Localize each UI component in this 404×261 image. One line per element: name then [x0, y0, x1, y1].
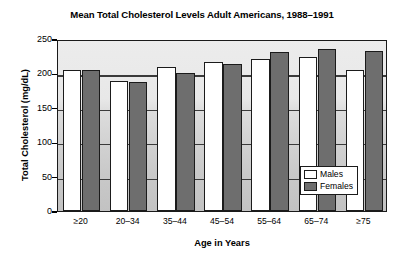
bar-males-45–54	[204, 62, 223, 211]
legend-swatch-females-icon	[304, 182, 317, 191]
legend-label-females: Females	[320, 182, 353, 191]
bar-females-45–54	[223, 64, 242, 211]
bar-females-≥20	[82, 70, 101, 211]
x-axis-title: Age in Years	[57, 238, 387, 248]
chart-title: Mean Total Cholesterol Levels Adult Amer…	[0, 9, 404, 20]
y-tick-250	[52, 39, 57, 40]
legend-swatch-males-icon	[304, 170, 317, 179]
legend-item-females: Females	[304, 181, 353, 192]
y-tick-0	[52, 211, 57, 212]
y-tick-label-50: 50	[42, 172, 52, 182]
bar-females-20–34	[129, 82, 148, 211]
legend-label-males: Males	[320, 170, 343, 179]
y-tick-label-250: 250	[37, 34, 52, 44]
y-tick-label-100: 100	[37, 137, 52, 147]
legend-item-males: Males	[304, 169, 353, 180]
bar-males-35–44	[157, 67, 176, 211]
chart-legend: Males Females	[300, 166, 358, 195]
bar-males-20–34	[110, 81, 129, 211]
chart-figure: Mean Total Cholesterol Levels Adult Amer…	[0, 0, 404, 261]
y-tick-200	[52, 74, 57, 75]
y-tick-label-150: 150	[37, 103, 52, 113]
y-tick-50	[52, 177, 57, 178]
bar-females-≥75	[365, 51, 384, 211]
y-axis-title: Total Cholesterol (mg/dL)	[20, 40, 30, 210]
x-tick-label-7: ≥75	[333, 216, 393, 226]
y-tick-150	[52, 108, 57, 109]
bar-females-55–64	[270, 52, 289, 211]
bar-males-55–64	[251, 59, 270, 211]
bar-males-≥20	[63, 70, 82, 211]
y-tick-label-200: 200	[37, 68, 52, 78]
y-tick-label-0: 0	[47, 206, 52, 216]
bar-females-35–44	[176, 73, 195, 211]
y-tick-100	[52, 143, 57, 144]
